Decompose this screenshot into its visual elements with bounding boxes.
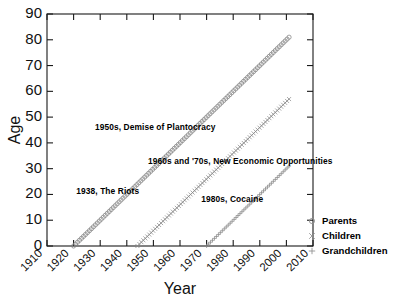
legend-item-children[interactable]: Children [309,230,361,241]
y-tick-label: 90 [25,4,42,21]
x-axis-title: Year [164,280,197,297]
y-tick-label: 50 [25,107,42,124]
y-tick-label: 20 [25,184,42,201]
age-vs-year-line-chart: 0102030405060708090 19101920193019401950… [0,0,418,303]
chart-annotation: 1938, The Riots [76,186,139,196]
x-tick-label: 1930 [71,247,98,274]
x-tick-label: 2010 [284,247,311,274]
legend-label: Grandchildren [322,245,388,256]
y-tick-label: 10 [25,210,42,227]
x-tick-label: 1920 [44,247,71,274]
legend-item-grandchildren[interactable]: Grandchildren [309,245,388,256]
chart-container: 0102030405060708090 19101920193019401950… [0,0,418,303]
chart-annotation: 1980s, Cocaine [201,194,263,204]
legend-label: Parents [322,215,357,226]
chart-annotation: 1950s, Demise of Plantocracy [95,122,216,132]
y-tick-label: 70 [25,56,42,73]
legend-item-parents[interactable]: Parents [309,215,357,226]
y-tick-label: 60 [25,81,42,98]
x-tick-label: 1980 [204,247,231,274]
y-axis-tick-labels: 0102030405060708090 [25,4,42,253]
y-tick-label: 40 [25,133,42,150]
chart-legend: ParentsChildrenGrandchildren [309,215,388,256]
legend-label: Children [322,230,361,241]
x-tick-label: 1990 [231,247,258,274]
y-tick-label: 80 [25,30,42,47]
data-series-layer [72,35,292,248]
legend-circle-icon [309,218,314,223]
series-parents [72,35,292,248]
x-tick-label: 1960 [151,247,178,274]
x-tick-label: 1950 [124,247,151,274]
x-tick-label: 2000 [257,247,284,274]
x-tick-label: 1940 [98,247,125,274]
y-tick-label: 30 [25,159,42,176]
annotations-layer: 1950s, Demise of Plantocracy1960s and '7… [76,122,333,204]
x-tick-label: 1970 [177,247,204,274]
series-children [135,97,291,248]
series-grandchildren [205,164,291,248]
chart-annotation: 1960s and '70s, New Economic Opportuniti… [148,156,333,166]
x-axis-tick-labels: 1910192019301940195019601970198019902000… [18,247,311,274]
y-axis-title: Age [6,116,23,145]
